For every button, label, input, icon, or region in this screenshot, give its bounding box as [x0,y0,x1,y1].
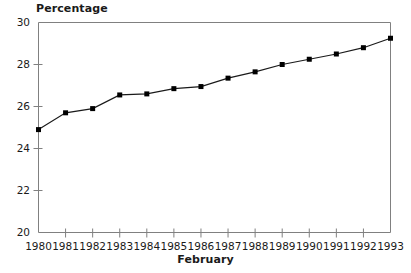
x-axis-title: February [0,253,411,266]
y-axis-tick-label: 24 [8,142,30,154]
y-axis-tick-label: 28 [8,58,30,70]
y-axis-tick-label: 20 [8,226,30,238]
y-axis-tick-label: 22 [8,184,30,196]
y-axis-tick-label: 26 [8,100,30,112]
line-chart-plot [0,0,411,273]
x-axis-tick-label: 1993 [374,240,408,252]
y-axis-tick-label: 30 [8,16,30,28]
series-markers [36,36,393,132]
chart-container: Percentage 202224262830 1980198119821983… [0,0,411,273]
